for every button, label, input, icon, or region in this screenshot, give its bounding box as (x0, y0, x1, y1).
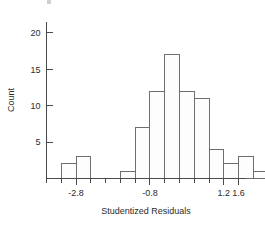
histogram-bar (76, 157, 91, 179)
top-crop-artifact (47, 0, 51, 4)
chart-canvas: 5101520 -2.8-0.81.21.6 Studentized Resid… (0, 0, 265, 226)
histogram-bar (224, 164, 239, 179)
x-tick-label: -2.8 (68, 188, 84, 198)
x-tick-label: 1.2 (218, 188, 231, 198)
x-tick-label: 1.6 (232, 188, 245, 198)
histogram-bar (165, 55, 180, 179)
x-axis-title: Studentized Residuals (101, 206, 191, 216)
histogram-chart: 5101520 -2.8-0.81.21.6 Studentized Resid… (0, 0, 265, 226)
y-tick-label: 5 (35, 137, 40, 147)
y-tick-label: 15 (30, 65, 40, 75)
y-axis-title: Count (6, 88, 16, 113)
y-tick-label: 20 (30, 28, 40, 38)
histogram-bar (150, 91, 165, 178)
histogram-bar (180, 91, 195, 178)
histogram-bar (120, 171, 135, 178)
x-tick-label: -0.8 (142, 188, 158, 198)
histogram-bar (209, 149, 224, 178)
histogram-bar (61, 164, 76, 179)
y-tick-label: 10 (30, 101, 40, 111)
histogram-bar (253, 171, 265, 178)
histogram-bar (194, 98, 209, 178)
histogram-bar (135, 128, 150, 179)
histogram-bar (239, 157, 254, 179)
